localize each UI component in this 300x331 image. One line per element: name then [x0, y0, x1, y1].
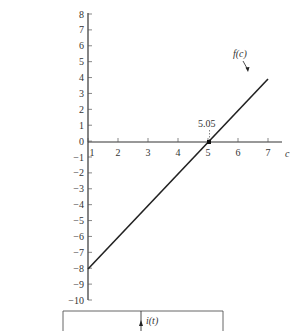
chart-canvas: 876543210−1−2−3−4−5−6−7−8−9−10 1234567 c… [0, 0, 300, 331]
x-tick-label: 3 [146, 147, 151, 158]
y-tick-label: −6 [73, 231, 84, 242]
x-ticks: 1234567 [88, 138, 271, 158]
y-tick-label: 6 [79, 40, 84, 51]
arrow-head-icon [246, 67, 250, 72]
x-tick-label: 6 [236, 147, 241, 158]
y-tick-label: −5 [73, 215, 84, 226]
y-tick-label: 5 [79, 56, 84, 67]
y-tick-label: 2 [79, 104, 84, 115]
y-tick-label: −2 [73, 167, 84, 178]
y-tick-label: 0 [79, 136, 84, 147]
lower-panel-box [63, 311, 223, 331]
x-tick-label: 7 [266, 147, 271, 158]
y-tick-label: −7 [73, 247, 84, 258]
fc-line [88, 79, 268, 269]
y-tick-label: 7 [79, 24, 84, 35]
x-tick-label: 1 [90, 147, 95, 158]
current-arrow-icon [139, 320, 143, 326]
y-tick-label: −9 [73, 279, 84, 290]
x-tick-label: 5 [206, 147, 211, 158]
y-tick-label: −10 [68, 295, 84, 306]
root-label: 5.05 [198, 118, 216, 129]
y-tick-label: −4 [73, 199, 84, 210]
x-tick-label: 4 [176, 147, 181, 158]
y-tick-label: 3 [79, 88, 84, 99]
root-marker [207, 140, 211, 144]
x-axis-label: c [285, 148, 290, 159]
y-tick-label: −1 [73, 152, 84, 163]
y-tick-label: −3 [73, 183, 84, 194]
y-tick-label: 8 [79, 9, 84, 20]
y-tick-label: −8 [73, 263, 84, 274]
curve-label: f(c) [233, 48, 248, 60]
y-tick-label: 1 [79, 120, 84, 131]
x-tick-label: 2 [116, 147, 121, 158]
current-label: i(t) [146, 315, 159, 327]
y-tick-label: 4 [79, 72, 84, 83]
